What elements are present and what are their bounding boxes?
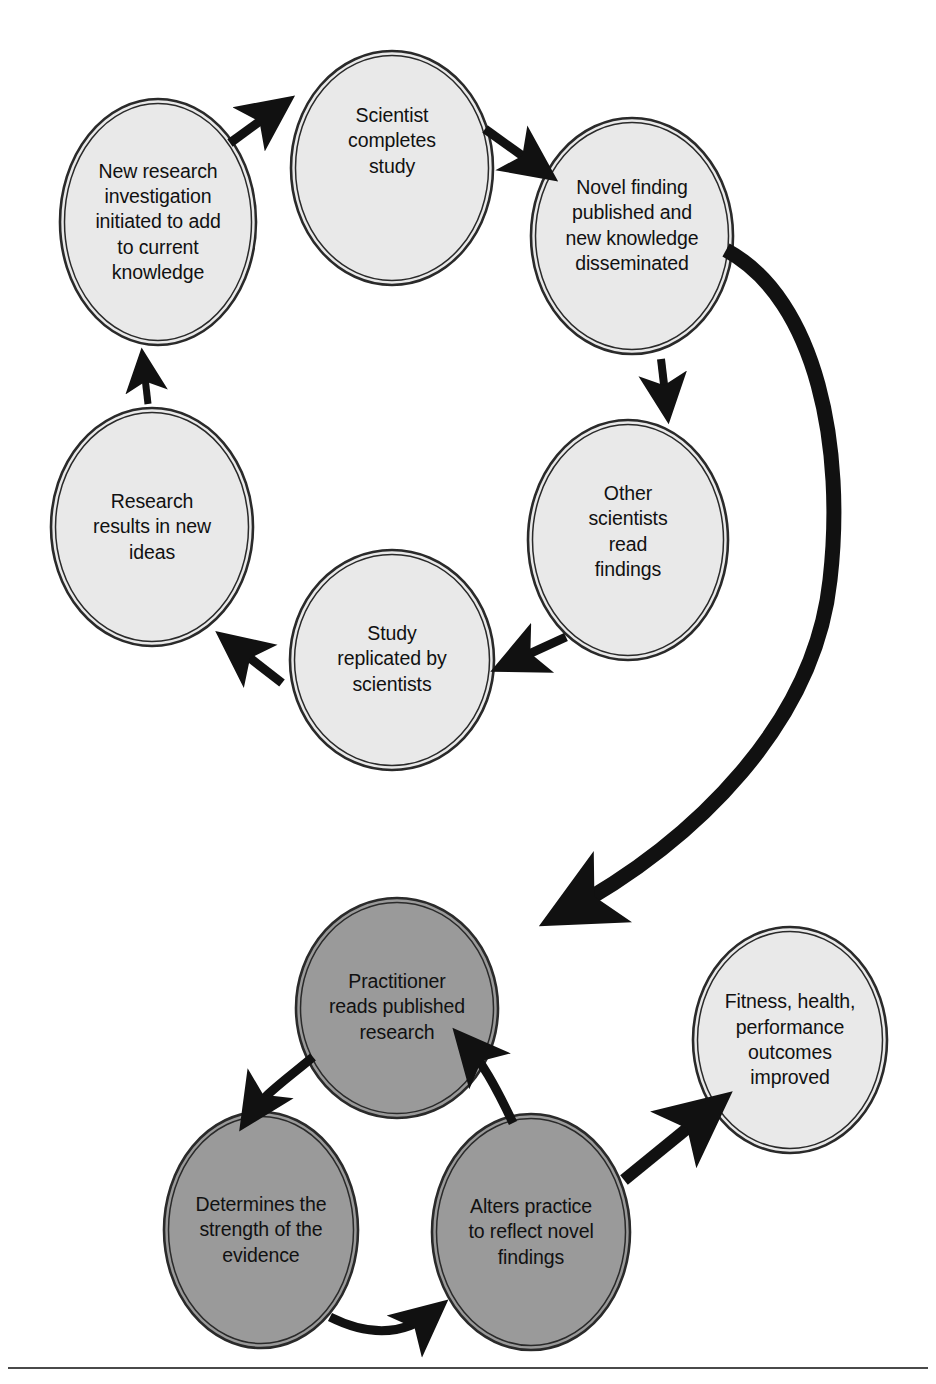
edge-alters-to-outcomes — [624, 1105, 716, 1180]
node-new-research-investigation[interactable] — [60, 99, 256, 345]
edge-other-scientists-to-study-replicated — [505, 637, 566, 665]
edge-study-replicated-to-ideas — [228, 641, 282, 683]
edge-determines-to-alters — [330, 1310, 436, 1331]
node-scientist-completes-study[interactable] — [291, 51, 493, 285]
node-novel-finding-published[interactable] — [531, 118, 733, 354]
diagram-canvas: New research investigation initiated to … — [0, 0, 936, 1384]
edge-practitioner-to-determines — [248, 1057, 313, 1118]
edge-ideas-to-new-research — [143, 360, 148, 404]
node-research-results-in-new-ideas[interactable] — [51, 408, 253, 646]
node-practitioner-reads-published-research[interactable] — [296, 898, 498, 1118]
node-alters-practice-to-reflect-novel-findings[interactable] — [432, 1114, 630, 1350]
edge-novel-finding-to-other-scientists — [661, 359, 667, 410]
edge-new-research-to-scientist — [230, 105, 282, 143]
footer-divider — [8, 1367, 928, 1369]
diagram-svg — [0, 0, 936, 1384]
node-other-scientists-read-findings[interactable] — [528, 420, 728, 660]
node-study-replicated-by-scientists[interactable] — [290, 550, 494, 770]
node-fitness-health-performance-outcomes-improved[interactable] — [693, 927, 887, 1153]
node-determines-strength-of-evidence[interactable] — [164, 1112, 358, 1348]
